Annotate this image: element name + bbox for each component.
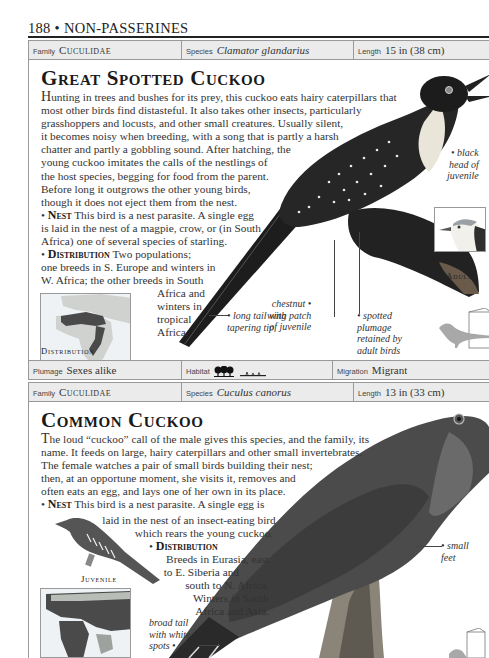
annotation-line: broad tail bbox=[149, 617, 190, 629]
distribution-section: • Distribution bbox=[149, 540, 289, 553]
family-value: Cuculidae bbox=[59, 386, 111, 398]
distribution-line: winters in bbox=[157, 300, 237, 313]
description-line: young cuckoo imitates the calls of the n… bbox=[41, 156, 461, 169]
family-label: Family bbox=[33, 389, 55, 398]
habitat-label: Habitat bbox=[186, 367, 210, 376]
header-separator: • bbox=[55, 20, 60, 36]
description-line: though it does not eject them from the n… bbox=[41, 196, 461, 209]
nest-section: • Nest This bird is a nest parasite. A s… bbox=[41, 498, 461, 511]
annotation-line: head of bbox=[447, 159, 479, 171]
entry-common-cuckoo: Common Cuckoo The loud “cuckoo” call of … bbox=[28, 402, 489, 658]
entry-title: Great Spotted Cuckoo bbox=[41, 66, 266, 91]
family-label: Family bbox=[33, 47, 55, 56]
annotation-line: black bbox=[457, 147, 479, 158]
description-line: it becomes noisy when breeding, with a s… bbox=[41, 130, 461, 143]
annotation-line: adult birds bbox=[357, 345, 402, 357]
species-label: Species bbox=[186, 47, 213, 56]
description-line: The loud “cuckoo” call of the male gives… bbox=[41, 432, 461, 446]
annotation-line: retained by bbox=[357, 333, 402, 345]
nest-line: is laid in the nest of a magpie, crow, o… bbox=[41, 222, 461, 235]
annotation-line: plumage bbox=[357, 322, 402, 334]
description: Hunting in trees and bushes for its prey… bbox=[41, 90, 461, 287]
migration-value: Migrant bbox=[372, 364, 407, 376]
distribution-map bbox=[40, 588, 131, 658]
family-cell: Family Cuculidae bbox=[29, 383, 182, 401]
annotation-line: tapering tip bbox=[227, 322, 286, 334]
grassland-icon bbox=[240, 366, 266, 377]
annotation-broad-tail: broad tail with white spots • bbox=[149, 617, 190, 652]
description-line: the host species, begging for food from … bbox=[41, 170, 461, 183]
section-title: NON-PASSERINES bbox=[64, 20, 189, 36]
juvenile-label: Juvenile bbox=[81, 574, 117, 584]
length-label: Length bbox=[358, 47, 381, 56]
bird-silhouette-book-icon bbox=[449, 628, 489, 658]
length-cell: Length 15 in (38 cm) bbox=[354, 41, 489, 59]
annotation-black-head: • black head of juvenile bbox=[447, 147, 479, 182]
length-label: Length bbox=[358, 389, 381, 398]
description-line: Hunting in trees and bushes for its prey… bbox=[41, 90, 461, 104]
adult-inset bbox=[434, 207, 486, 252]
annotation-long-tail: • long tail with tapering tip bbox=[227, 310, 286, 333]
annotation-line: feet bbox=[441, 552, 469, 564]
annotation-spotted-plumage: • spotted plumage retained by adult bird… bbox=[357, 310, 402, 356]
nest-heading: Nest bbox=[48, 497, 72, 511]
entry1-info-bar-top: Family Cuculidae Species Clamator glanda… bbox=[28, 40, 489, 60]
habitat-cell: Habitat bbox=[182, 361, 333, 379]
nest-heading: Nest bbox=[48, 208, 72, 222]
distribution-line: one breeds in S. Europe and winters in bbox=[41, 261, 461, 274]
page-number: 188 bbox=[28, 20, 51, 36]
description-line: most other birds find distasteful. It al… bbox=[41, 104, 461, 117]
adult-head-illustration bbox=[435, 208, 486, 252]
leader-line bbox=[414, 546, 442, 547]
adult-label: Adult bbox=[446, 271, 472, 281]
annotation-line: with white bbox=[149, 629, 190, 641]
page-header: 188 • NON-PASSERINES bbox=[28, 20, 188, 37]
annotation-line: small bbox=[447, 540, 469, 551]
description-line: chatter and partly a gobbling sound. Aft… bbox=[41, 143, 461, 156]
bird-silhouette-book-icon bbox=[439, 308, 489, 353]
distribution-line: Two populations; bbox=[112, 248, 191, 260]
description-line: The female watches a pair of small birds… bbox=[41, 459, 461, 472]
description-line: Before long it outgrows the other young … bbox=[41, 183, 461, 196]
distribution-section: • Distribution Two populations; bbox=[41, 248, 461, 261]
family-value: Cuculidae bbox=[59, 44, 111, 56]
species-label: Species bbox=[186, 389, 213, 398]
length-value: 15 in (38 cm) bbox=[385, 44, 445, 56]
annotation-line: chestnut bbox=[272, 298, 305, 309]
distribution-line: Winters in South bbox=[129, 592, 269, 605]
distribution-line: W. Africa; the other breeds in South bbox=[41, 274, 461, 287]
length-cell: Length 13 in (33 cm) bbox=[354, 383, 489, 401]
plumage-cell: Plumage Sexes alike bbox=[29, 361, 182, 379]
species-value: Cuculus canorus bbox=[217, 386, 291, 398]
entry1-info-bar-bottom: Plumage Sexes alike Habitat Migration Mi… bbox=[28, 360, 489, 380]
eurasia-africa-map bbox=[41, 589, 131, 658]
header-rule bbox=[28, 36, 489, 38]
nest-section: • Nest This bird is a nest parasite. A s… bbox=[41, 209, 461, 222]
distribution-heading: Distribution bbox=[48, 247, 110, 261]
leader-line bbox=[199, 645, 219, 646]
description: The loud “cuckoo” call of the male gives… bbox=[41, 432, 461, 512]
species-cell: Species Clamator glandarius bbox=[182, 41, 354, 59]
plumage-value: Sexes alike bbox=[67, 364, 117, 376]
plumage-label: Plumage bbox=[33, 367, 63, 376]
entry-title: Common Cuckoo bbox=[41, 408, 204, 433]
entry2-info-bar-top: Family Cuculidae Species Cuculus canorus… bbox=[28, 382, 489, 402]
trees-icon bbox=[214, 366, 234, 377]
distribution-heading: Distribution bbox=[156, 539, 218, 553]
nest-line: This bird is a nest parasite. A single e… bbox=[74, 498, 264, 510]
annotation-small-feet: • small feet bbox=[441, 540, 469, 563]
map-label: Distribution bbox=[41, 346, 94, 356]
description-line: name. It feeds on large, hairy caterpill… bbox=[41, 446, 461, 459]
length-value: 13 in (33 cm) bbox=[385, 386, 445, 398]
description-line: often eats an egg, and lays one of her o… bbox=[41, 485, 461, 498]
distribution-continued: Africa and winters in tropical Africa. bbox=[157, 287, 237, 339]
leader-line bbox=[209, 315, 229, 316]
leader-line bbox=[334, 240, 335, 317]
migration-cell: Migration Migrant bbox=[333, 361, 489, 379]
entry-great-spotted-cuckoo: Great Spotted Cuckoo Hunting in trees an… bbox=[28, 60, 489, 360]
description-line: then, at an opportune moment, she visits… bbox=[41, 472, 461, 485]
nest-line: This bird is a nest parasite. A single e… bbox=[74, 209, 254, 221]
species-value: Clamator glandarius bbox=[217, 44, 310, 56]
species-cell: Species Cuculus canorus bbox=[182, 383, 354, 401]
annotation-line: long tail with bbox=[233, 310, 286, 321]
